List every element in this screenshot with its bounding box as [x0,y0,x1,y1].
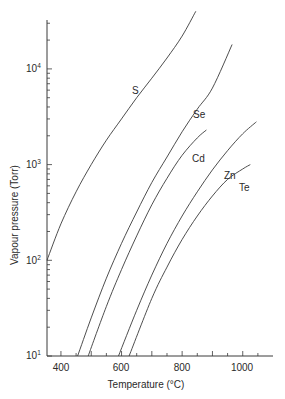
y-axis-title: Vapour pressure (Torr) [9,165,20,265]
curves [47,11,256,356]
x-axis-title: Temperature (°C) [108,379,185,390]
y-axis-ticks [47,23,52,356]
xtick-label-400: 400 [53,362,70,373]
curve-label-zn: Zn [224,170,236,181]
xtick-label-800: 800 [174,362,191,373]
xtick-label-1000: 1000 [231,362,254,373]
curve-zn [119,122,257,356]
xtick-label-600: 600 [113,362,130,373]
curve-label-te: Te [239,182,250,193]
curve-te [129,165,250,356]
curve-label-se: Se [193,109,206,120]
ytick-label-10e1: 101 [26,349,41,361]
x-axis-ticks [61,351,258,356]
ytick-label-10e4: 104 [26,62,41,74]
curve-label-s: S [132,85,139,96]
vapour-pressure-chart: 104 103 102 101 400 600 800 1000 Tempera… [0,0,285,399]
ytick-label-10e3: 103 [26,158,41,170]
curve-cd [88,130,206,356]
ytick-label-10e2: 102 [26,254,41,266]
curve-label-cd: Cd [192,153,205,164]
curve-s [47,11,196,260]
